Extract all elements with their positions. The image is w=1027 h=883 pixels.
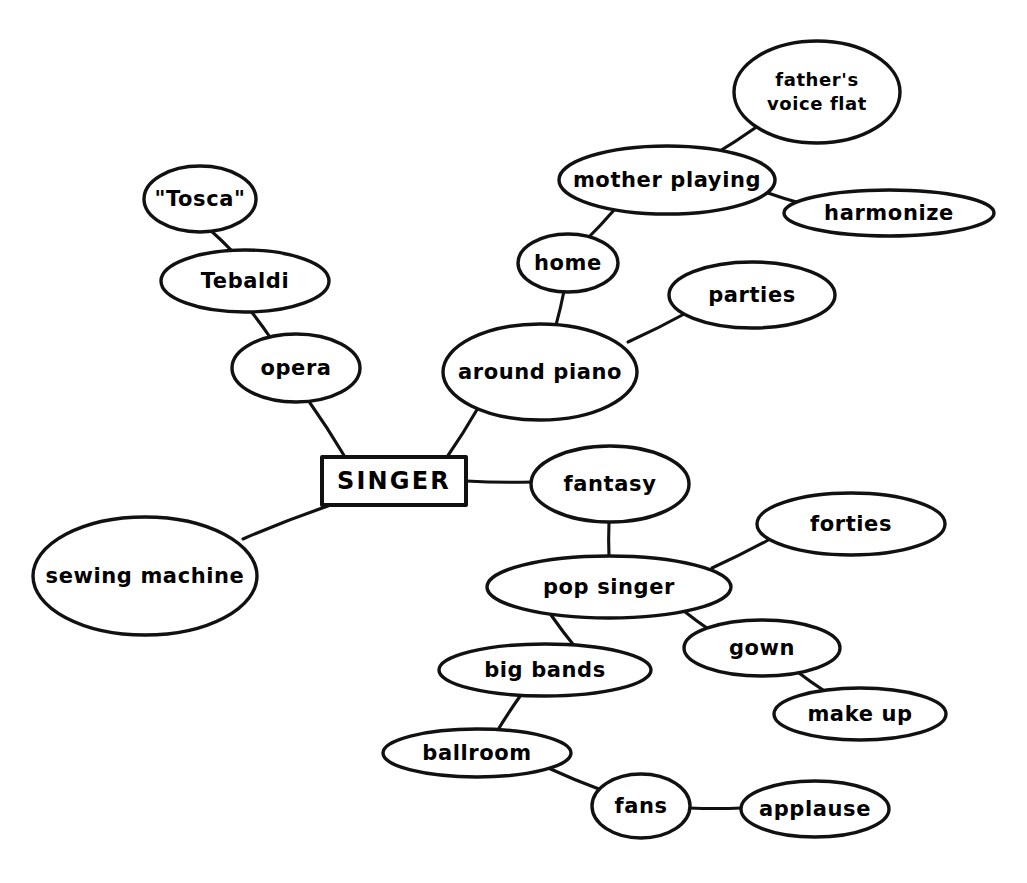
fantasy-shape bbox=[531, 446, 689, 522]
edge-singer-fantasy bbox=[466, 481, 533, 482]
node-around-piano[interactable]: around piano bbox=[443, 324, 637, 420]
edge-singer-sewing-machine bbox=[243, 506, 328, 539]
edge-ballroom-fans bbox=[546, 767, 604, 791]
node-applause[interactable]: applause bbox=[741, 781, 889, 837]
forties-shape bbox=[757, 493, 945, 555]
node-harmonize[interactable]: harmonize bbox=[784, 190, 994, 236]
edge-fans-applause bbox=[689, 808, 742, 809]
mindmap-canvas: SINGER"Tosca"Tebaldioperaaround pianohom… bbox=[0, 0, 1027, 883]
node-parties[interactable]: parties bbox=[669, 262, 835, 328]
edge-around-piano-parties bbox=[628, 312, 688, 342]
fans-shape bbox=[592, 774, 690, 838]
applause-shape bbox=[741, 781, 889, 837]
node-fathers-voice-flat[interactable]: father'svoice flat bbox=[734, 41, 900, 143]
tosca-shape bbox=[144, 166, 256, 232]
big-bands-shape bbox=[439, 644, 651, 696]
mother-playing-shape bbox=[559, 146, 775, 214]
node-singer[interactable]: SINGER bbox=[322, 457, 466, 505]
parties-shape bbox=[669, 262, 835, 328]
node-ballroom[interactable]: ballroom bbox=[383, 729, 571, 777]
opera-shape bbox=[232, 334, 360, 402]
node-layer: SINGER"Tosca"Tebaldioperaaround pianohom… bbox=[33, 41, 994, 838]
node-pop-singer[interactable]: pop singer bbox=[487, 556, 731, 618]
gown-shape bbox=[684, 620, 840, 676]
edge-big-bands-ballroom bbox=[496, 692, 523, 733]
node-mother-playing[interactable]: mother playing bbox=[559, 146, 775, 214]
node-sewing-machine[interactable]: sewing machine bbox=[33, 517, 257, 635]
node-tosca[interactable]: "Tosca" bbox=[144, 166, 256, 232]
fathers-voice-flat-shape bbox=[734, 41, 900, 143]
edge-layer bbox=[208, 128, 826, 809]
node-make-up[interactable]: make up bbox=[774, 688, 946, 740]
pop-singer-shape bbox=[487, 556, 731, 618]
node-gown[interactable]: gown bbox=[684, 620, 840, 676]
edge-around-piano-home bbox=[556, 291, 564, 325]
node-big-bands[interactable]: big bands bbox=[439, 644, 651, 696]
home-shape bbox=[518, 234, 618, 292]
edge-singer-opera bbox=[308, 400, 345, 457]
singer-shape bbox=[322, 457, 466, 505]
harmonize-shape bbox=[784, 190, 994, 236]
node-fans[interactable]: fans bbox=[592, 774, 690, 838]
edge-singer-around-piano bbox=[447, 408, 478, 457]
around-piano-shape bbox=[443, 324, 637, 420]
node-fantasy[interactable]: fantasy bbox=[531, 446, 689, 522]
sewing-machine-shape bbox=[33, 517, 257, 635]
ballroom-shape bbox=[383, 729, 571, 777]
node-home[interactable]: home bbox=[518, 234, 618, 292]
node-forties[interactable]: forties bbox=[757, 493, 945, 555]
node-opera[interactable]: opera bbox=[232, 334, 360, 402]
node-tebaldi[interactable]: Tebaldi bbox=[161, 250, 329, 312]
mindmap-diagram: SINGER"Tosca"Tebaldioperaaround pianohom… bbox=[0, 0, 1027, 883]
edge-pop-singer-forties bbox=[712, 538, 772, 568]
make-up-shape bbox=[774, 688, 946, 740]
tebaldi-shape bbox=[161, 250, 329, 312]
